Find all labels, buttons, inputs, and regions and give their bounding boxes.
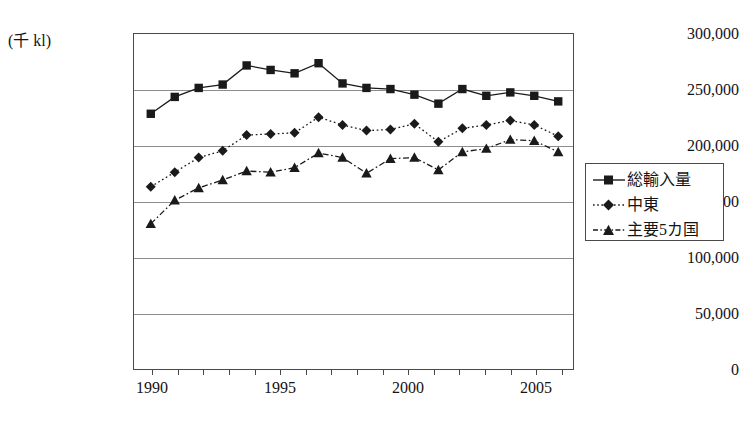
x-tick-mark bbox=[331, 370, 332, 375]
series-line bbox=[151, 63, 558, 114]
data-point-square bbox=[410, 90, 418, 98]
diamond-marker-icon bbox=[591, 195, 627, 215]
series-layer bbox=[134, 34, 575, 371]
x-tick-mark bbox=[280, 370, 281, 375]
data-point-square bbox=[362, 84, 370, 92]
data-point-diamond bbox=[529, 120, 539, 130]
data-point-square bbox=[506, 88, 514, 96]
x-tick-mark bbox=[511, 370, 512, 375]
legend-label: 主要5カ国 bbox=[627, 220, 699, 240]
data-point-square bbox=[290, 69, 298, 77]
data-point-diamond bbox=[553, 131, 563, 141]
data-point-square bbox=[242, 61, 250, 69]
data-point-diamond bbox=[218, 146, 228, 156]
data-point-square bbox=[482, 92, 490, 100]
data-point-triangle bbox=[553, 147, 563, 156]
data-point-diamond bbox=[433, 137, 443, 147]
data-point-diamond bbox=[170, 167, 180, 177]
legend-item-total-imports: 総輸入量 bbox=[591, 167, 718, 192]
data-point-diamond bbox=[314, 112, 324, 122]
data-point-triangle bbox=[481, 143, 491, 152]
y-tick-label-300000: 300,000 bbox=[647, 25, 739, 43]
y-tick-label-50000: 50,000 bbox=[647, 305, 739, 323]
x-tick-mark bbox=[255, 370, 256, 375]
x-tick-mark bbox=[383, 370, 384, 375]
data-point-triangle bbox=[217, 175, 227, 184]
data-point-triangle bbox=[289, 162, 299, 171]
data-point-triangle bbox=[529, 136, 539, 145]
data-point-diamond bbox=[146, 182, 156, 192]
data-point-square bbox=[530, 92, 538, 100]
plot-area bbox=[133, 33, 574, 370]
data-point-diamond bbox=[505, 116, 515, 126]
data-point-square bbox=[266, 66, 274, 74]
legend-label: 中東 bbox=[627, 195, 659, 215]
data-point-square bbox=[314, 59, 322, 67]
square-marker-icon bbox=[591, 170, 627, 190]
chart-figure: (千 kl) 300,000 250,000 200,000 150,000 1… bbox=[0, 0, 739, 421]
x-tick-label-1990: 1990 bbox=[122, 379, 182, 397]
data-point-diamond bbox=[361, 126, 371, 136]
data-point-diamond bbox=[457, 123, 467, 133]
x-tick-mark bbox=[178, 370, 179, 375]
data-point-diamond bbox=[242, 130, 252, 140]
data-point-diamond bbox=[409, 119, 419, 129]
x-tick-mark bbox=[459, 370, 460, 375]
x-tick-mark bbox=[152, 370, 153, 375]
data-point-square bbox=[195, 84, 203, 92]
data-point-diamond bbox=[481, 120, 491, 130]
data-point-diamond bbox=[338, 120, 348, 130]
data-point-square bbox=[386, 85, 394, 93]
x-tick-mark bbox=[408, 370, 409, 375]
x-tick-mark bbox=[434, 370, 435, 375]
data-point-diamond bbox=[266, 129, 276, 139]
data-point-triangle bbox=[170, 195, 180, 204]
x-tick-label-2000: 2000 bbox=[378, 379, 438, 397]
y-tick-label-0: 0 bbox=[647, 361, 739, 379]
data-point-diamond bbox=[194, 153, 204, 163]
data-point-square bbox=[434, 99, 442, 107]
x-tick-mark bbox=[203, 370, 204, 375]
data-point-square bbox=[554, 97, 562, 105]
series-line bbox=[151, 140, 558, 224]
x-tick-mark bbox=[536, 370, 537, 375]
x-tick-mark bbox=[357, 370, 358, 375]
y-axis-unit-label: (千 kl) bbox=[8, 27, 51, 51]
data-point-square bbox=[147, 110, 155, 118]
data-point-triangle bbox=[241, 166, 251, 175]
data-point-square bbox=[171, 93, 179, 101]
chart-legend: 総輸入量 中東 主要5カ国 bbox=[585, 163, 724, 241]
data-point-triangle bbox=[361, 168, 371, 177]
triangle-marker-icon bbox=[591, 220, 627, 240]
data-point-square bbox=[338, 79, 346, 87]
x-tick-label-2005: 2005 bbox=[506, 379, 566, 397]
series-line bbox=[151, 117, 558, 187]
legend-label: 総輸入量 bbox=[627, 170, 691, 190]
data-point-triangle bbox=[433, 165, 443, 174]
data-point-diamond bbox=[385, 124, 395, 134]
y-tick-label-250000: 250,000 bbox=[647, 81, 739, 99]
data-point-square bbox=[218, 80, 226, 88]
data-point-triangle bbox=[409, 152, 419, 161]
legend-item-major-5-countries: 主要5カ国 bbox=[591, 217, 718, 242]
x-tick-mark bbox=[485, 370, 486, 375]
y-tick-label-200000: 200,000 bbox=[647, 137, 739, 155]
data-point-triangle bbox=[194, 183, 204, 192]
x-tick-label-1995: 1995 bbox=[250, 379, 310, 397]
x-tick-mark bbox=[306, 370, 307, 375]
data-point-triangle bbox=[505, 134, 515, 143]
data-point-square bbox=[458, 85, 466, 93]
legend-item-middle-east: 中東 bbox=[591, 192, 718, 217]
x-tick-mark bbox=[229, 370, 230, 375]
data-point-diamond bbox=[290, 128, 300, 138]
y-tick-label-100000: 100,000 bbox=[647, 249, 739, 267]
data-point-triangle bbox=[457, 147, 467, 156]
x-tick-mark bbox=[562, 370, 563, 375]
data-point-triangle bbox=[313, 148, 323, 157]
